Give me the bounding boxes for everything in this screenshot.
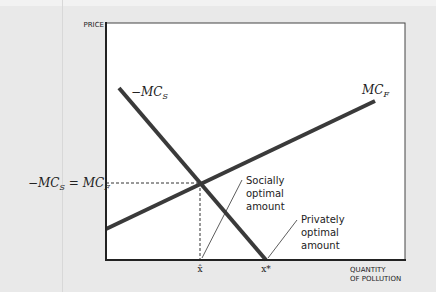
x-axis-label-line2: OF POLLUTION [350, 275, 401, 283]
mc-social-label-sub: S [163, 92, 169, 101]
x-hat-tick-label: x̂ [197, 264, 202, 274]
y-axis-label: PRICE [84, 21, 104, 29]
eq-left-main: −MC [28, 176, 60, 190]
private-annotation-line3: amount [301, 240, 340, 251]
eq-right-sub: F [103, 183, 110, 192]
externality-diagram: PRICE QUANTITY OF POLLUTION −MCS MCF −MC… [0, 0, 436, 292]
eq-right-main: MC [82, 176, 104, 190]
mc-social-label-main: −MC [131, 85, 163, 99]
plot-area [106, 23, 405, 260]
equilibrium-price-label: −MCS = MCF [28, 176, 110, 192]
private-annotation-line1: Privately [301, 214, 345, 225]
x-star-tick-label: x* [261, 264, 271, 274]
social-annotation-line2: optimal [246, 188, 284, 199]
mc-firm-label-main: MC [361, 83, 383, 97]
social-annotation-line3: amount [246, 201, 285, 212]
eq-equals: = [65, 176, 83, 190]
social-annotation-line1: Socially [246, 175, 284, 186]
x-axis-label-line1: QUANTITY [350, 266, 386, 274]
private-annotation-line2: optimal [301, 227, 339, 238]
mc-firm-label-sub: F [382, 90, 389, 99]
